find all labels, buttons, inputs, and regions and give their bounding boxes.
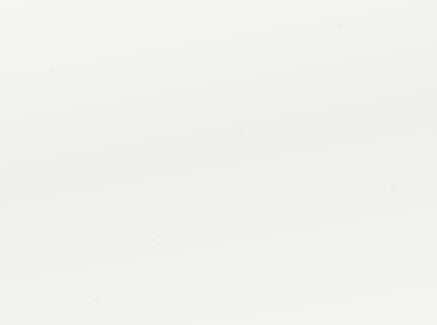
category-label-width-to-thickness-ratio: width-to-thickness ratio: [0, 162, 146, 227]
category-label-channel-thickness: Channel thickness: [0, 32, 146, 97]
x-tick-label-2-5: 2.5: [369, 296, 388, 312]
x-tick-label-0: 0: [148, 296, 156, 312]
significance-arrow-icon: [242, 33, 290, 51]
y-axis-category-labels: Channel thickness Channel sinuosity widt…: [0, 32, 146, 292]
bar-channel-sinuosity: [152, 97, 220, 161]
bar-value-channel-sinuosity: 0.75: [227, 122, 253, 137]
category-label-percent-sand: % sand: [0, 227, 146, 292]
bar-band: 0.65: [152, 162, 424, 227]
x-axis-line: [152, 292, 428, 293]
category-label-channel-sinuosity: Channel sinuosity: [0, 97, 146, 162]
bar-value-width-to-thickness-ratio: 0.65: [218, 187, 244, 202]
chart-title: Significant effect: [250, 2, 362, 19]
x-tick-label-0-5: 0.5: [188, 296, 207, 312]
bar-band: 0.25: [152, 227, 424, 292]
bar-value-percent-sand: 0.25: [182, 252, 208, 267]
bar-percent-sand: [152, 227, 175, 291]
significance-threshold-line: [243, 18, 245, 301]
plot-area: 2.6 0.75 0.65 0.25: [152, 32, 424, 292]
bar-value-channel-thickness: 2.6: [395, 57, 414, 72]
x-tick-label-1: 1: [239, 296, 247, 312]
bar-width-to-thickness-ratio: [152, 162, 211, 226]
x-tick-label-2: 2: [329, 296, 337, 312]
bar-band: 0.75: [152, 97, 424, 162]
x-axis-tick-labels: 00.511.522.53: [0, 296, 437, 320]
bar-chart: Significant effect Channel thickness Cha…: [0, 0, 437, 325]
x-tick-label-3: 3: [420, 296, 428, 312]
x-tick-label-1-5: 1.5: [278, 296, 297, 312]
